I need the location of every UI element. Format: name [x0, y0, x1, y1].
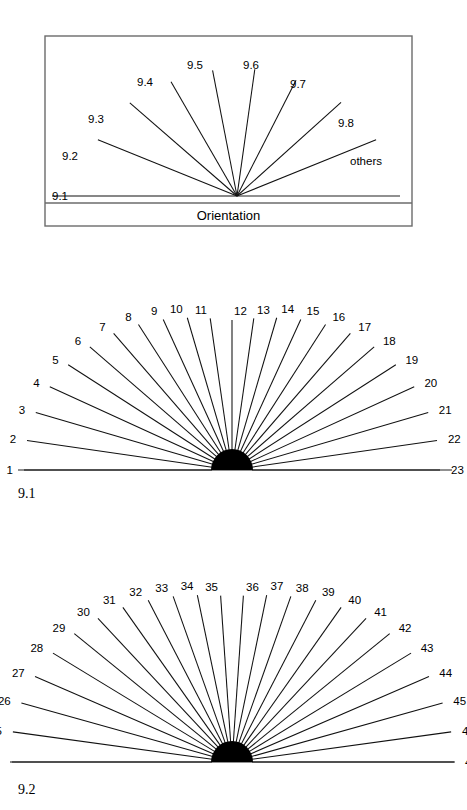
ray-21	[251, 412, 428, 464]
ray-label-6: 6	[75, 335, 81, 347]
ray-label-18: 18	[383, 335, 396, 347]
ray-label-1: 1	[7, 464, 13, 476]
panel-9-1: 1234567891011121314151617181920212223 9.…	[0, 258, 467, 516]
fan-hub-9-1	[211, 449, 253, 470]
legend-ray-98	[237, 102, 341, 196]
ray-label-32: 32	[129, 586, 142, 598]
legend-ray-97	[237, 80, 296, 196]
legend-ray-94	[171, 82, 237, 196]
ray-44	[250, 676, 429, 754]
legend-label-group: 9.19.29.39.49.59.69.79.8others	[52, 59, 382, 202]
ray-label-35: 35	[205, 581, 218, 593]
ray-3	[36, 412, 213, 464]
ray-label-44: 44	[439, 667, 452, 679]
ray-label-40: 40	[348, 594, 361, 606]
ray-17	[245, 333, 350, 454]
ray-label-38: 38	[296, 582, 309, 594]
ray-label-13: 13	[257, 304, 270, 316]
ray-label-15: 15	[307, 305, 320, 317]
orientation-legend-svg: 9.19.29.39.49.59.69.79.8others Orientati…	[0, 28, 467, 258]
ray-label-43: 43	[421, 642, 434, 654]
legend-ray-93	[130, 103, 237, 196]
ray-35	[221, 596, 231, 742]
ray-label-22: 22	[448, 433, 461, 445]
hub-fan-diagram-9-2	[211, 741, 253, 762]
ray-label-2: 2	[10, 433, 16, 445]
legend-frame	[45, 36, 412, 226]
legend-ray-label-95: 9.5	[187, 59, 203, 71]
ray-label-28: 28	[30, 642, 43, 654]
ray-label-26: 26	[0, 695, 11, 707]
legend-ray-label-92: 9.2	[62, 150, 78, 162]
ray-39	[241, 600, 316, 744]
ray-label-33: 33	[155, 582, 168, 594]
ray-label-42: 42	[399, 622, 412, 634]
panel-9-2: 2425262728293031323334353637383940414243…	[0, 516, 467, 810]
legend-ray-96	[237, 69, 255, 196]
legend-frame-rect	[45, 36, 412, 226]
ray-label-39: 39	[322, 586, 335, 598]
ray-label-14: 14	[281, 303, 294, 315]
ray-30	[98, 618, 218, 747]
legend-ray-92	[98, 140, 237, 196]
fan-hub-9-2	[211, 741, 253, 762]
ray-11	[210, 318, 229, 450]
legend-ray-group	[52, 69, 400, 196]
ray-label-45: 45	[453, 695, 466, 707]
ray-label-9: 9	[151, 305, 157, 317]
ray-43	[249, 653, 411, 751]
legend-ray-others	[237, 140, 376, 196]
ray-label-30: 30	[77, 606, 90, 618]
ray-label-41: 41	[374, 606, 387, 618]
figure-root: 9.19.29.39.49.59.69.79.8others Orientati…	[0, 0, 467, 810]
ray-label-37: 37	[270, 580, 283, 592]
orientation-legend-panel: 9.19.29.39.49.59.69.79.8others Orientati…	[0, 28, 467, 258]
ray-5	[68, 365, 215, 459]
legend-ray-label-97: 9.7	[290, 78, 306, 90]
ray-28	[53, 653, 215, 751]
ray-32	[148, 600, 223, 744]
ray-label-23: 23	[451, 464, 464, 476]
ray-label-4: 4	[33, 377, 40, 389]
ray-2	[27, 441, 212, 468]
ray-label-20: 20	[424, 377, 437, 389]
ray-13	[235, 318, 254, 450]
ray-label-36: 36	[246, 581, 259, 593]
ray-19	[249, 365, 396, 459]
ray-37	[236, 595, 267, 742]
ray-label-12: 12	[234, 305, 247, 317]
ray-41	[246, 618, 366, 747]
ray-label-8: 8	[125, 311, 131, 323]
ray-8	[138, 324, 221, 453]
ray-18	[247, 347, 374, 457]
legend-ray-label-94: 9.4	[137, 76, 154, 88]
legend-ray-label-96: 9.6	[243, 59, 259, 71]
ray-6	[90, 347, 217, 457]
ray-label-34: 34	[181, 580, 194, 592]
ray-label-25: 25	[0, 725, 2, 737]
ray-46	[252, 732, 451, 759]
ray-label-7: 7	[99, 321, 105, 333]
legend-ray-label-91: 9.1	[52, 190, 68, 202]
ray-label-19: 19	[405, 354, 418, 366]
fan-diagram-9-1-svg: 1234567891011121314151617181920212223 9.…	[0, 258, 467, 516]
legend-ray-label-others: others	[350, 155, 382, 167]
ray-25	[13, 732, 212, 759]
ray-label-10: 10	[170, 303, 183, 315]
ray-label-3: 3	[19, 404, 25, 416]
ray-7	[114, 333, 219, 454]
ray-27	[35, 676, 214, 754]
legend-ray-95	[213, 70, 237, 196]
ray-label-11: 11	[195, 304, 207, 316]
ray-label-17: 17	[358, 321, 371, 333]
ray-label-46: 46	[462, 725, 467, 737]
ray-label-21: 21	[439, 404, 452, 416]
ray-36	[233, 596, 243, 742]
ray-label-16: 16	[332, 311, 345, 323]
ray-label-27: 27	[12, 667, 25, 679]
legend-ray-label-93: 9.3	[88, 113, 104, 125]
panel-tag-9-2: 9.2	[18, 782, 36, 797]
panel-tag-9-1: 9.1	[18, 486, 36, 501]
ray-label-31: 31	[103, 594, 116, 606]
hub-fan-diagram-9-1	[211, 449, 253, 470]
